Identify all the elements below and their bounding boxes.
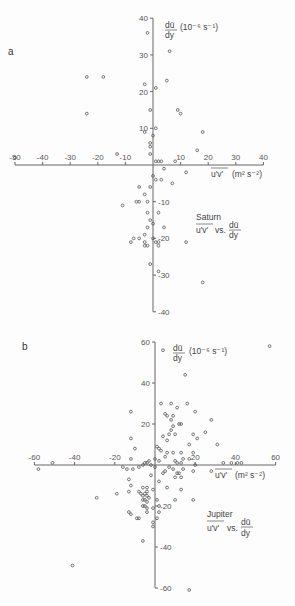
data-point — [201, 281, 204, 284]
data-point — [174, 433, 177, 436]
vs-numerator: dū — [229, 220, 239, 230]
x-tick-label: 40 — [259, 153, 268, 162]
data-point — [222, 462, 225, 465]
vs-denominator: dy — [229, 230, 239, 240]
data-point — [201, 131, 204, 134]
y-axis-units: (10⁻⁶ s⁻¹) — [189, 346, 227, 356]
data-point — [143, 233, 146, 236]
data-point — [143, 83, 146, 86]
data-point — [185, 241, 188, 244]
data-point — [162, 349, 165, 352]
data-point — [164, 455, 167, 458]
panel-letter-b: b — [22, 341, 28, 352]
data-point — [134, 447, 137, 450]
data-point — [172, 425, 175, 428]
x-axis-title-b: u'v' (m² s⁻²) — [215, 469, 265, 480]
data-point — [166, 451, 169, 454]
data-point — [188, 589, 191, 592]
data-point — [194, 410, 197, 413]
data-point — [142, 486, 145, 489]
y-tick-label: 40 — [139, 14, 148, 23]
vs-mid: vs. — [215, 225, 226, 235]
data-point — [176, 462, 179, 465]
figure: a dū dy (10⁻⁶ s⁻¹) u'v' (m² s⁻²) Saturn … — [0, 0, 295, 606]
x-tick-label: 10 — [176, 153, 185, 162]
data-point — [138, 466, 141, 469]
data-point — [210, 419, 213, 422]
y-tick-label: 60 — [141, 338, 150, 347]
x-axis-units: (m² s⁻²) — [232, 169, 262, 179]
x-tick-label: -20 — [109, 453, 121, 462]
data-point — [268, 345, 271, 348]
data-point — [166, 414, 169, 417]
data-point — [130, 437, 133, 440]
data-point — [168, 50, 171, 53]
data-point — [196, 437, 199, 440]
data-point — [143, 241, 146, 244]
data-point — [216, 443, 219, 446]
data-point — [210, 470, 213, 473]
data-point — [51, 462, 54, 465]
y-tick-label: -20 — [160, 502, 172, 511]
y-tick-label: 20 — [139, 88, 148, 97]
data-point — [184, 373, 187, 376]
data-point — [160, 449, 163, 452]
vs-numerator: dū — [241, 517, 251, 527]
data-point — [132, 237, 135, 240]
data-point — [138, 186, 141, 189]
y-tick-label: -40 — [158, 308, 170, 317]
data-point — [156, 517, 159, 520]
y-axis-title-numerator: dū — [165, 20, 175, 30]
legend-annotation-b: Jupiter u'v' vs. dū dy — [207, 509, 253, 538]
axes-saturn: -50-40-30-20-101020304040302010-10-20-30… — [9, 14, 268, 317]
x-tick-label: -60 — [29, 453, 41, 462]
vs-left: u'v' — [196, 225, 209, 235]
x-axis-units: (m² s⁻²) — [235, 470, 265, 480]
data-point — [180, 488, 183, 491]
data-point — [171, 182, 174, 185]
data-point — [130, 458, 133, 461]
data-point — [142, 494, 145, 497]
x-tick-label: -40 — [69, 453, 81, 462]
data-point — [170, 419, 173, 422]
scatter-points-jupiter — [37, 345, 271, 592]
data-point — [186, 402, 189, 405]
data-point — [152, 488, 155, 491]
data-point — [146, 511, 149, 514]
x-axis-title-a: u'v' (m² s⁻²) — [211, 168, 262, 179]
data-point — [146, 507, 149, 510]
data-point — [162, 435, 165, 438]
data-point — [149, 145, 152, 148]
data-point — [130, 241, 133, 244]
data-point — [135, 200, 138, 203]
data-point — [180, 451, 183, 454]
data-point — [168, 433, 171, 436]
data-point — [37, 468, 40, 471]
data-point — [160, 160, 163, 163]
data-point — [170, 402, 173, 405]
data-point — [130, 484, 133, 487]
x-tick-label: 20 — [191, 453, 200, 462]
vs-mid: vs. — [227, 523, 238, 533]
data-point — [127, 490, 130, 493]
data-point — [188, 443, 191, 446]
x-tick-label: -30 — [64, 153, 76, 162]
data-point — [154, 127, 157, 130]
data-point — [146, 244, 149, 247]
planet-name: Saturn — [196, 212, 221, 222]
data-point — [149, 153, 152, 156]
data-point — [158, 460, 161, 463]
data-point — [138, 237, 141, 240]
data-point — [115, 492, 118, 495]
data-point — [132, 468, 135, 471]
data-point — [172, 468, 175, 471]
data-point — [172, 451, 175, 454]
data-point — [152, 507, 155, 510]
data-point — [126, 468, 129, 471]
data-point — [102, 76, 105, 79]
x-tick-label: -50 — [9, 153, 21, 162]
x-tick-label: 40 — [231, 453, 240, 462]
planet-name: Jupiter — [207, 509, 233, 519]
data-point — [165, 79, 168, 82]
data-point — [152, 521, 155, 524]
